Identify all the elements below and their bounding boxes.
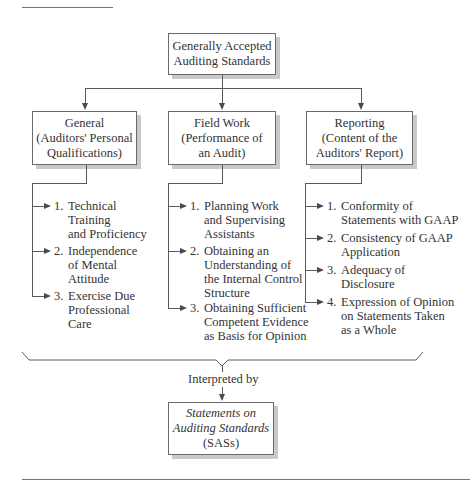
- reporting-tick-4: [305, 302, 317, 303]
- interpreted-by-label: Interpreted by: [188, 372, 258, 387]
- category-line: Auditors' Report): [316, 146, 403, 161]
- category-box-general: General (Auditors' Personal Qualificatio…: [32, 111, 137, 165]
- category-box-field-work: Field Work (Performance of an Audit): [168, 111, 276, 165]
- reporting-tick-1: [305, 206, 317, 207]
- general-tick-1: [32, 206, 44, 207]
- root-line-1: Generally Accepted: [173, 39, 272, 54]
- arrow-down-icon: [219, 103, 225, 110]
- root-horizontal: [85, 88, 362, 89]
- general-drop: [86, 165, 87, 183]
- category-line: Qualifications): [47, 146, 122, 161]
- category-line: Reporting: [335, 116, 385, 131]
- arrow-right-icon: [317, 203, 324, 209]
- stem-general: [85, 88, 86, 104]
- stem-field-work: [222, 88, 223, 104]
- category-line: General: [65, 116, 105, 131]
- arrow-right-icon: [44, 248, 51, 254]
- arrow-right-icon: [317, 299, 324, 305]
- field-work-drop: [222, 165, 223, 183]
- arrow-right-icon: [44, 293, 51, 299]
- grouping-brace: [0, 340, 470, 370]
- reporting-tick-2: [305, 238, 317, 239]
- sas-box: Statements on Auditing Standards (SASs): [168, 402, 274, 455]
- category-line: an Audit): [199, 146, 246, 161]
- category-line: (Content of the: [322, 131, 398, 146]
- figure-bottom-rule: [22, 479, 470, 480]
- arrow-right-icon: [180, 305, 187, 311]
- sas-line-3: (SASs): [203, 436, 239, 451]
- arrow-right-icon: [180, 203, 187, 209]
- general-tick-2: [32, 251, 44, 252]
- root-stem: [222, 75, 223, 88]
- sas-line-1: Statements on: [186, 406, 256, 421]
- root-box-gaas: Generally Accepted Auditing Standards: [168, 33, 276, 75]
- field-work-tick-3: [168, 308, 180, 309]
- reporting-tick-3: [305, 270, 317, 271]
- reporting-drop: [361, 165, 362, 183]
- general-spine: [32, 183, 33, 297]
- arrow-down-icon: [219, 394, 225, 401]
- category-line: (Performance of: [181, 131, 263, 146]
- sas-line-2: Auditing Standards: [173, 421, 269, 436]
- category-box-reporting: Reporting (Content of the Auditors' Repo…: [306, 111, 413, 165]
- field-work-tick-2: [168, 251, 180, 252]
- field-work-spine: [168, 183, 169, 308]
- reporting-horizontal: [305, 183, 362, 184]
- category-line: (Auditors' Personal: [36, 131, 132, 146]
- arrow-right-icon: [317, 235, 324, 241]
- category-line: Field Work: [194, 116, 250, 131]
- arrow-right-icon: [317, 267, 324, 273]
- arrow-right-icon: [44, 203, 51, 209]
- root-line-2: Auditing Standards: [174, 54, 271, 69]
- reporting-spine: [305, 183, 306, 302]
- field-work-tick-1: [168, 206, 180, 207]
- stem-reporting: [361, 88, 362, 104]
- field-work-horizontal: [168, 183, 223, 184]
- figure-header-rule: [22, 7, 113, 8]
- general-tick-3: [32, 296, 44, 297]
- arrow-right-icon: [180, 248, 187, 254]
- arrow-down-icon: [358, 103, 364, 110]
- interpreted-stem-top: [222, 366, 223, 372]
- general-horizontal: [32, 183, 87, 184]
- arrow-down-icon: [82, 103, 88, 110]
